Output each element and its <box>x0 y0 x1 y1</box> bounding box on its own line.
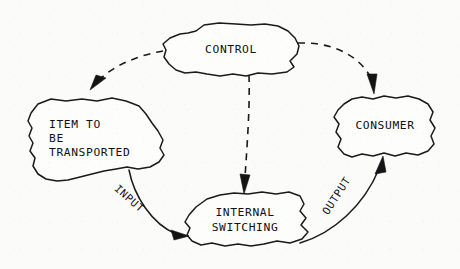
node-consumer-label: CONSUMER <box>355 119 414 132</box>
node-consumer[interactable]: CONSUMER <box>334 96 435 157</box>
edge-control-to-consumer[interactable] <box>298 43 377 94</box>
node-switching-outline <box>185 192 308 246</box>
edge-output[interactable]: OUTPUT <box>300 156 386 243</box>
node-item-label-line3: TRANSPORTED <box>49 146 130 159</box>
node-item-to-be-transported[interactable]: ITEM TO BE TRANSPORTED <box>28 98 164 181</box>
edge-control-to-consumer-line <box>298 43 370 76</box>
edge-control-to-switching-line <box>245 75 249 178</box>
node-item-label-line1: ITEM TO <box>49 118 101 131</box>
edge-control-to-item-arrowhead <box>90 75 106 90</box>
edge-control-to-item-line <box>100 51 163 79</box>
diagram-canvas: CONTROL ITEM TO BE TRANSPORTED CONSUMER … <box>0 0 460 269</box>
edge-input[interactable]: INPUT <box>113 170 189 240</box>
edge-input-label: INPUT <box>113 182 147 215</box>
edge-control-to-consumer-arrowhead <box>367 74 377 94</box>
node-internal-switching[interactable]: INTERNAL SWITCHING <box>185 192 308 246</box>
block-flow-diagram: CONTROL ITEM TO BE TRANSPORTED CONSUMER … <box>0 0 460 269</box>
edge-control-to-switching-arrowhead <box>240 174 250 194</box>
node-item-label-line2: BE <box>49 132 64 145</box>
edge-output-label: OUTPUT <box>320 174 353 216</box>
edge-control-to-item[interactable] <box>90 51 163 90</box>
node-switching-label-line1: INTERNAL <box>215 206 274 219</box>
edge-input-arrowhead <box>171 230 189 240</box>
edge-control-to-switching[interactable] <box>240 75 250 194</box>
edge-output-arrowhead <box>375 156 386 174</box>
node-switching-label-line2: SWITCHING <box>212 221 279 234</box>
node-control[interactable]: CONTROL <box>163 23 299 76</box>
node-control-label: CONTROL <box>205 43 257 56</box>
